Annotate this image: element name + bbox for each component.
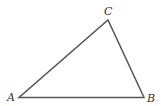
triangle-abc xyxy=(19,20,144,98)
vertex-label-a: A xyxy=(6,91,15,104)
vertex-label-b: B xyxy=(146,92,155,105)
vertex-label-c: C xyxy=(104,5,113,18)
triangle-diagram: A B C xyxy=(0,0,161,106)
